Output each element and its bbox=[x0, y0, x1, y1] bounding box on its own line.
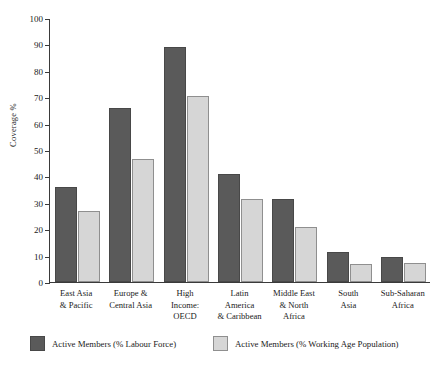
bar-group bbox=[272, 18, 317, 282]
bar-group bbox=[327, 18, 372, 282]
bar-series-1 bbox=[78, 211, 100, 282]
legend-item[interactable]: Active Members (% Labour Force) bbox=[30, 336, 176, 351]
legend-swatch-icon bbox=[213, 336, 228, 351]
y-axis-tick-label: 100 bbox=[30, 14, 44, 24]
x-axis-category-label: Sub-SaharanAfrica bbox=[360, 288, 436, 311]
bar-series-0 bbox=[381, 257, 403, 282]
y-axis-tick-label: 30 bbox=[34, 199, 43, 209]
legend-label: Active Members (% Working Age Population… bbox=[235, 339, 399, 349]
bar-series-0 bbox=[327, 252, 349, 282]
bar-series-0 bbox=[272, 199, 294, 282]
bar-series-1 bbox=[350, 264, 372, 282]
y-axis-tick bbox=[45, 151, 49, 152]
y-axis-tick bbox=[45, 98, 49, 99]
y-axis-tick bbox=[45, 283, 49, 284]
y-axis-tick-label: 0 bbox=[39, 278, 44, 288]
bar-series-1 bbox=[404, 263, 426, 282]
bar-series-0 bbox=[55, 187, 77, 282]
y-axis-tick-label: 90 bbox=[34, 40, 43, 50]
bar-group bbox=[109, 18, 154, 282]
chart-legend: Active Members (% Labour Force)Active Me… bbox=[0, 336, 436, 358]
bar-group bbox=[218, 18, 263, 282]
bar-series-1 bbox=[132, 159, 154, 282]
y-axis-tick-label: 10 bbox=[34, 252, 43, 262]
y-axis-line bbox=[49, 19, 50, 284]
bar-group bbox=[381, 18, 426, 282]
y-axis-tick-label: 80 bbox=[34, 67, 43, 77]
bar-series-1 bbox=[241, 199, 263, 282]
y-axis-title: Coverage % bbox=[8, 85, 18, 165]
bar-series-0 bbox=[164, 47, 186, 282]
y-axis-tick bbox=[45, 19, 49, 20]
plot-area: 0102030405060708090100 bbox=[49, 19, 430, 283]
y-axis-tick bbox=[45, 125, 49, 126]
category-label-line: Africa bbox=[360, 300, 436, 312]
y-axis-tick bbox=[45, 45, 49, 46]
x-axis-line bbox=[49, 282, 430, 283]
legend-swatch-icon bbox=[30, 336, 45, 351]
category-label-line: Africa bbox=[251, 311, 337, 323]
x-axis-category-labels: East Asia& PacificEurope &Central AsiaHi… bbox=[49, 288, 430, 332]
bar-series-1 bbox=[187, 96, 209, 282]
y-axis-tick bbox=[45, 257, 49, 258]
y-axis-tick-label: 60 bbox=[34, 120, 43, 130]
bar-group bbox=[55, 18, 100, 282]
coverage-bar-chart: Coverage % 0102030405060708090100 East A… bbox=[0, 0, 436, 366]
y-axis-tick bbox=[45, 204, 49, 205]
y-axis-tick-label: 50 bbox=[34, 146, 43, 156]
legend-label: Active Members (% Labour Force) bbox=[52, 339, 176, 349]
bar-series-0 bbox=[109, 108, 131, 282]
bar-group bbox=[164, 18, 209, 282]
y-axis-tick-label: 70 bbox=[34, 93, 43, 103]
legend-item[interactable]: Active Members (% Working Age Population… bbox=[213, 336, 399, 351]
bar-series-0 bbox=[218, 174, 240, 282]
bar-series-1 bbox=[295, 227, 317, 282]
y-axis-tick bbox=[45, 72, 49, 73]
y-axis-tick-label: 20 bbox=[34, 225, 43, 235]
category-label-line: Sub-Saharan bbox=[360, 288, 436, 300]
y-axis-tick-label: 40 bbox=[34, 172, 43, 182]
y-axis-tick bbox=[45, 230, 49, 231]
y-axis-tick bbox=[45, 177, 49, 178]
